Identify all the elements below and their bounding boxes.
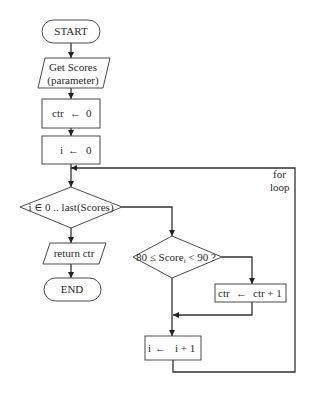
init-i-box: i ← 0 — [42, 136, 100, 164]
for-loop-label: for loop — [270, 168, 290, 193]
init-ctr-rhs: 0 — [86, 107, 92, 119]
score-check-diamond: 80 ≤ Scorei < 90 ? — [133, 236, 222, 278]
for-loop-label-line2: loop — [270, 181, 290, 193]
input-label-line1: Get Scores — [49, 61, 97, 73]
input-parallelogram: Get Scores (parameter) — [38, 58, 110, 88]
loop-condition-diamond: i ∈ 0 .. last(Scores) — [20, 187, 122, 228]
input-label-line2: (parameter) — [47, 74, 99, 87]
increment-i-box: i ← i + 1 — [145, 336, 201, 360]
increment-ctr-lhs: ctr — [218, 287, 230, 299]
end-label: END — [61, 283, 84, 295]
assign-arrow-icon: ← — [70, 107, 81, 119]
end-terminal: END — [44, 278, 101, 301]
score-check-label: 80 ≤ Scorei < 90 ? — [136, 251, 216, 265]
output-label: return ctr — [54, 247, 95, 259]
init-ctr-box: ctr ← 0 — [42, 99, 100, 128]
score-check-prefix: 80 ≤ Score — [136, 251, 184, 263]
flowchart-canvas: START Get Scores (parameter) ctr ← 0 i ←… — [0, 0, 309, 394]
init-i-lhs: i — [60, 144, 63, 156]
increment-i-rhs: i + 1 — [175, 342, 195, 354]
increment-ctr-rhs: ctr + 1 — [253, 287, 282, 299]
for-loop-label-line1: for — [273, 168, 286, 180]
increment-ctr-box: ctr ← ctr + 1 — [215, 284, 286, 302]
init-i-rhs: 0 — [86, 144, 92, 156]
loop-condition-label: i ∈ 0 .. last(Scores) — [28, 201, 113, 214]
init-ctr-lhs: ctr — [52, 107, 64, 119]
score-check-suffix: < 90 ? — [186, 251, 216, 263]
increment-i-lhs: i — [148, 342, 151, 354]
start-label: START — [54, 25, 88, 37]
assign-arrow-icon: ← — [68, 144, 79, 156]
assign-arrow-icon: ← — [236, 287, 247, 299]
assign-arrow-icon: ← — [155, 342, 166, 354]
output-parallelogram: return ctr — [43, 243, 106, 264]
start-terminal: START — [42, 20, 100, 43]
